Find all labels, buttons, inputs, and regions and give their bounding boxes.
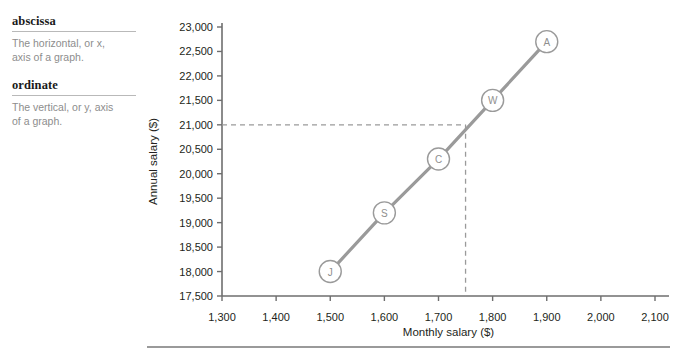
x-axis-tick-label: 1,400 — [262, 311, 290, 323]
y-axis-tick-label: 23,000 — [179, 21, 213, 33]
y-axis-tick-label: 18,000 — [179, 266, 213, 278]
x-axis-tick-label: 2,100 — [641, 311, 669, 323]
marker-label: J — [328, 267, 333, 278]
salary-line-chart: JSCWA 17,50018,00018,50019,00019,50020,0… — [0, 0, 681, 358]
data-point-marker[interactable]: S — [373, 202, 395, 224]
x-axis-tick-label: 1,600 — [371, 311, 399, 323]
y-axis-title: Annual salary ($) — [147, 118, 159, 205]
marker-label: A — [543, 37, 550, 48]
marker-label: S — [381, 208, 388, 219]
x-axis-tick-label: 2,000 — [587, 311, 615, 323]
data-point-marker[interactable]: C — [428, 148, 450, 170]
figure-bottom-rule — [147, 346, 670, 348]
axis-label-layer: 17,50018,00018,50019,00019,50020,00020,5… — [147, 21, 669, 338]
data-series-layer: JSCWA — [319, 31, 558, 283]
figure-canvas: abscissa The horizontal, or x, axis of a… — [0, 0, 681, 358]
marker-label: C — [435, 154, 442, 165]
data-point-marker[interactable]: J — [319, 261, 341, 283]
y-axis-tick-label: 19,000 — [179, 217, 213, 229]
x-axis-title: Monthly salary ($) — [403, 326, 495, 338]
data-point-marker[interactable]: W — [482, 89, 504, 111]
y-axis-tick-label: 17,500 — [179, 290, 213, 302]
x-axis-tick-label: 1,800 — [479, 311, 507, 323]
data-point-marker[interactable]: A — [536, 31, 558, 53]
y-axis-tick-label: 21,500 — [179, 94, 213, 106]
y-axis-tick-label: 20,500 — [179, 143, 213, 155]
x-axis-tick-label: 1,300 — [208, 311, 236, 323]
y-axis-tick-label: 20,000 — [179, 168, 213, 180]
x-axis-tick-label: 1,500 — [316, 311, 344, 323]
y-axis-tick-label: 22,500 — [179, 45, 213, 57]
reference-line-layer — [222, 125, 466, 296]
y-axis-tick-label: 18,500 — [179, 241, 213, 253]
y-axis-tick-label: 19,500 — [179, 192, 213, 204]
y-axis-tick-label: 22,000 — [179, 70, 213, 82]
y-axis-tick-label: 21,000 — [179, 119, 213, 131]
x-axis-tick-label: 1,900 — [533, 311, 561, 323]
x-axis-tick-label: 1,700 — [425, 311, 453, 323]
marker-label: W — [488, 95, 498, 106]
